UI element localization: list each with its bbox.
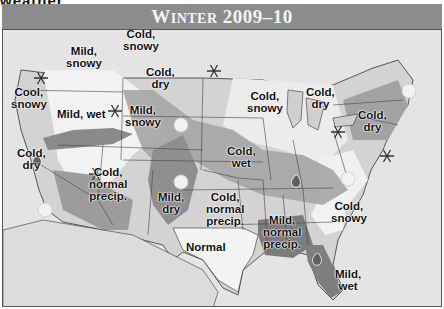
region-label-upper-midwest: Cold,snowy [247, 90, 283, 114]
region-label-idaho: Mild,snowy [66, 45, 102, 69]
region-label-northeast: Cold,dry [358, 109, 387, 133]
region-label-midwest: Cold,wet [227, 145, 256, 169]
region-label-deep-south: Mild,normalprecip. [263, 214, 301, 250]
weather-map: Cool,snowy Mild,snowy Cold,snowy Cold,dr… [2, 29, 442, 307]
region-label-central-plains: Cold,dry [146, 66, 175, 90]
region-label-colorado: Mild,snowy [125, 104, 161, 128]
region-label-california: Cold,dry [17, 147, 46, 171]
region-label-pacific-nw: Cool,snowy [11, 86, 47, 110]
region-label-texas: Normal [186, 241, 226, 253]
region-label-northern-plains: Cold,snowy [123, 29, 159, 52]
region-label-florida: Mild,wet [335, 268, 361, 292]
map-title: WINTER 2009–10 [2, 4, 442, 29]
region-label-new-mexico: Mild,dry [158, 191, 184, 215]
region-label-southeast: Cold,snowy [331, 200, 367, 224]
region-label-michigan: Cold,dry [306, 86, 335, 110]
map-graphic [3, 30, 442, 307]
region-label-great-basin: Mild, wet [57, 108, 106, 120]
title-initial: W [151, 6, 171, 27]
region-label-southwest: Cold,normalprecip. [89, 166, 127, 202]
title-smallcaps: INTER [171, 11, 218, 26]
title-years: 2009–10 [218, 6, 293, 27]
region-label-oklahoma: Cold,normalprecip. [206, 191, 244, 227]
